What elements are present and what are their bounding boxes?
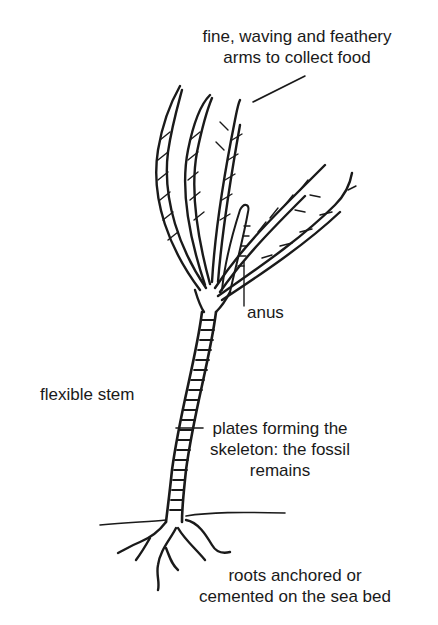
roots-label-line-2: cemented on the sea bed bbox=[170, 586, 420, 607]
stem-label: flexible stem bbox=[40, 384, 134, 405]
arms-label-line-1: fine, waving and feathery bbox=[172, 26, 422, 47]
plates-label: plates forming the skeleton: the fossil … bbox=[180, 418, 380, 481]
crinoid-drawing bbox=[0, 0, 438, 625]
arms-leader-line bbox=[253, 76, 305, 102]
roots-label-line-1: roots anchored or bbox=[170, 565, 420, 586]
anus-label: anus bbox=[247, 302, 284, 323]
arms bbox=[156, 86, 352, 300]
plates-label-line-2: skeleton: the fossil bbox=[180, 439, 380, 460]
plates-label-line-3: remains bbox=[180, 460, 380, 481]
plates-label-line-1: plates forming the bbox=[180, 418, 380, 439]
arms-label-line-2: arms to collect food bbox=[172, 47, 422, 68]
stem-plates bbox=[170, 320, 215, 510]
arms-label: fine, waving and feathery arms to collec… bbox=[172, 26, 422, 68]
roots-label: roots anchored or cemented on the sea be… bbox=[170, 565, 420, 607]
